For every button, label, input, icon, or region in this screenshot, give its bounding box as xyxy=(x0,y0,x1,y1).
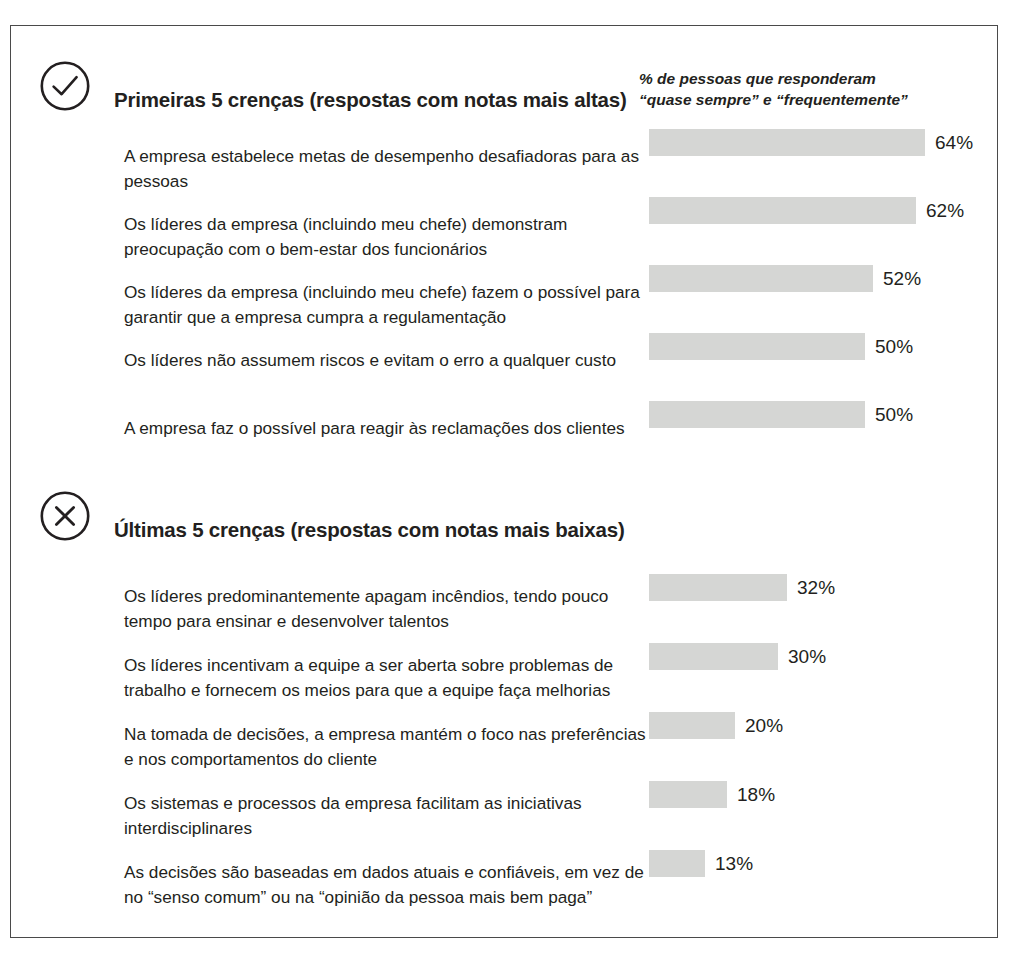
bar xyxy=(649,333,865,360)
statement-text: Na tomada de decisões, a empresa mantém … xyxy=(124,722,646,772)
bar xyxy=(649,781,727,808)
bar xyxy=(649,712,735,739)
statement-text: Os líderes da empresa (incluindo meu che… xyxy=(124,212,646,262)
bar xyxy=(649,643,778,670)
chart-frame: Primeiras 5 crenças (respostas com notas… xyxy=(10,25,998,938)
bar xyxy=(649,197,916,224)
section-title-top: Primeiras 5 crenças (respostas com notas… xyxy=(114,88,627,112)
bar-value-label: 20% xyxy=(745,712,783,739)
chart-page: Primeiras 5 crenças (respostas com notas… xyxy=(0,0,1012,972)
bar-value-label: 32% xyxy=(797,574,835,601)
bar-value-label: 50% xyxy=(875,333,913,360)
bar xyxy=(649,574,787,601)
bar-value-label: 62% xyxy=(926,197,964,224)
bar-value-label: 52% xyxy=(883,265,921,292)
column-header-line1: % de pessoas que responderam xyxy=(639,68,969,89)
section-title-bottom: Últimas 5 crenças (respostas com notas m… xyxy=(114,518,625,542)
bar-value-label: 64% xyxy=(935,129,973,156)
check-circle-icon xyxy=(39,60,91,112)
statement-text: Os líderes não assumem riscos e evitam o… xyxy=(124,348,646,373)
column-header-note: % de pessoas que responderam “quase semp… xyxy=(639,68,969,110)
statement-text: Os sistemas e processos da empresa facil… xyxy=(124,791,646,841)
column-header-line2: “quase sempre” e “frequentemente” xyxy=(639,89,969,110)
bar-value-label: 13% xyxy=(715,850,753,877)
bar xyxy=(649,850,705,877)
statement-text: Os líderes incentivam a equipe a ser abe… xyxy=(124,653,646,703)
bar xyxy=(649,265,873,292)
bar-value-label: 18% xyxy=(737,781,775,808)
bar xyxy=(649,401,865,428)
statement-text: Os líderes da empresa (incluindo meu che… xyxy=(124,280,646,330)
x-circle-icon xyxy=(39,490,91,542)
bar-value-label: 50% xyxy=(875,401,913,428)
statement-text: Os líderes predominantemente apagam incê… xyxy=(124,584,646,634)
statement-text: A empresa faz o possível para reagir às … xyxy=(124,416,646,441)
bar xyxy=(649,129,925,156)
bar-value-label: 30% xyxy=(788,643,826,670)
statement-text: A empresa estabelece metas de desempenho… xyxy=(124,144,646,194)
statement-text: As decisões são baseadas em dados atuais… xyxy=(124,860,646,910)
